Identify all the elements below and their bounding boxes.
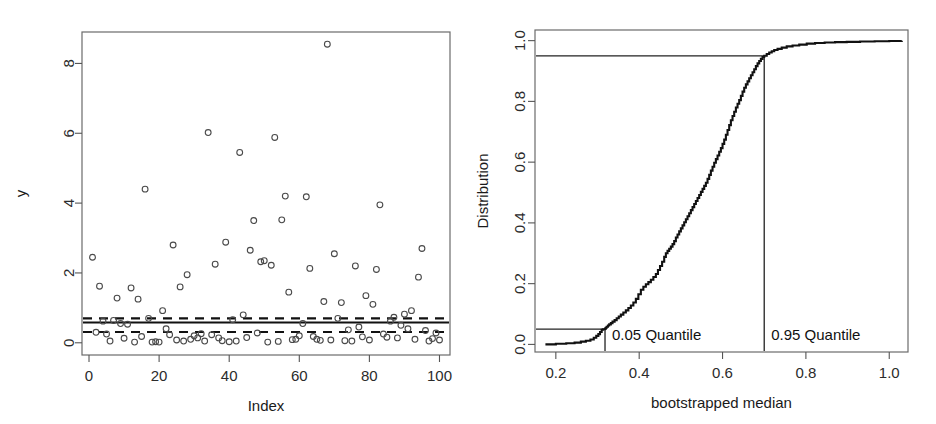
data-point: [139, 334, 145, 340]
scatter-plot-panel: 02468020406080100Indexy: [0, 0, 470, 424]
data-point: [363, 293, 369, 299]
data-point: [188, 336, 194, 342]
data-point: [240, 312, 246, 318]
y-axis-title: Distribution: [474, 153, 491, 228]
data-point: [251, 218, 257, 224]
x-tick-label: 100: [427, 367, 452, 384]
data-point: [93, 329, 99, 335]
data-point: [307, 266, 313, 272]
data-point: [349, 338, 355, 344]
ecdf-plot-svg: 0.00.20.40.60.81.00.20.40.60.81.0bootstr…: [466, 0, 936, 424]
ecdf-plot-panel: 0.00.20.40.60.81.00.20.40.60.81.0bootstr…: [466, 0, 936, 424]
data-point: [279, 217, 285, 223]
data-point: [156, 339, 162, 345]
x-tick-label: 0.2: [545, 364, 566, 381]
data-point: [233, 338, 239, 344]
data-point: [177, 284, 183, 290]
data-point: [395, 335, 401, 341]
data-point: [142, 186, 148, 192]
y-tick-label: 0.6: [512, 152, 529, 173]
y-tick-label: 0.0: [512, 334, 529, 355]
data-point: [366, 337, 372, 343]
data-point: [272, 135, 278, 141]
figure-panel-pair: 02468020406080100Indexy 0.00.20.40.60.81…: [0, 0, 936, 424]
data-point: [223, 239, 229, 245]
data-point: [132, 339, 138, 345]
y-tick-label: 0: [61, 339, 78, 347]
data-point: [226, 339, 232, 345]
data-point: [107, 338, 113, 344]
data-point: [416, 274, 422, 280]
x-tick-label: 40: [221, 367, 238, 384]
data-point: [268, 262, 274, 268]
x-tick-label: 0: [85, 367, 93, 384]
scatter-points: [90, 41, 443, 345]
x-tick-label: 0.4: [629, 364, 650, 381]
y-tick-label: 2: [61, 269, 78, 277]
data-point: [377, 202, 383, 208]
data-point: [384, 334, 390, 340]
data-point: [293, 336, 299, 342]
x-axis-title: Index: [248, 397, 285, 414]
data-point: [244, 335, 250, 341]
data-point: [419, 246, 425, 252]
data-point: [135, 296, 141, 302]
y-tick-label: 0.4: [512, 212, 529, 233]
y-tick-label: 0.2: [512, 273, 529, 294]
data-point: [265, 339, 271, 345]
data-point: [163, 326, 169, 332]
data-point: [202, 338, 208, 344]
data-point: [303, 194, 309, 200]
data-point: [338, 300, 344, 306]
x-tick-label: 0.8: [795, 364, 816, 381]
data-point: [412, 336, 418, 342]
data-point: [237, 150, 243, 156]
data-point: [247, 247, 253, 253]
data-point: [170, 242, 176, 248]
data-point: [205, 130, 211, 136]
x-tick-label: 0.6: [712, 364, 733, 381]
data-point: [114, 295, 120, 301]
data-point: [381, 331, 387, 337]
plot-frame: [535, 30, 908, 352]
data-point: [405, 326, 411, 332]
data-point: [286, 289, 292, 295]
data-point: [128, 285, 134, 291]
ecdf-curve: [545, 41, 901, 345]
lower-quantile-label: 0.05 Quantile: [612, 326, 701, 343]
data-point: [328, 337, 334, 343]
data-point: [121, 335, 127, 341]
y-tick-label: 1.0: [512, 30, 529, 51]
y-axis-title: y: [12, 189, 29, 197]
data-point: [181, 338, 187, 344]
data-point: [321, 299, 327, 305]
data-point: [324, 41, 330, 47]
data-point: [282, 193, 288, 199]
data-point: [370, 301, 376, 307]
data-point: [402, 311, 408, 317]
x-axis-title: bootstrapped median: [651, 394, 792, 411]
x-tick-label: 80: [361, 367, 378, 384]
y-tick-label: 6: [61, 129, 78, 137]
x-tick-label: 60: [291, 367, 308, 384]
scatter-plot-svg: 02468020406080100Indexy: [0, 0, 470, 424]
data-point: [331, 251, 337, 257]
data-point: [345, 327, 351, 333]
y-tick-label: 8: [61, 59, 78, 67]
data-point: [97, 283, 103, 289]
data-point: [374, 267, 380, 273]
data-point: [356, 324, 362, 330]
y-tick-label: 0.8: [512, 91, 529, 112]
x-tick-label: 20: [151, 367, 168, 384]
upper-quantile-label: 0.95 Quantile: [771, 326, 860, 343]
data-point: [317, 337, 323, 343]
data-point: [160, 308, 166, 314]
plot-frame: [82, 32, 450, 355]
data-point: [409, 308, 415, 314]
data-point: [437, 337, 443, 343]
x-tick-label: 1.0: [879, 364, 900, 381]
data-point: [275, 338, 281, 344]
data-point: [212, 261, 218, 267]
data-point: [261, 258, 267, 264]
data-point: [352, 263, 358, 269]
